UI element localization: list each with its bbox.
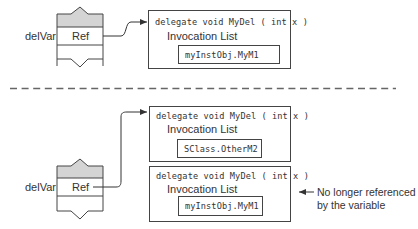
old-method-entry: myInstObj.MyM1 <box>185 202 259 211</box>
bottom-ref-label: Ref <box>72 182 89 193</box>
old-invocation-list-label: Invocation List <box>167 184 237 195</box>
new-delegate-signature: delegate void MyDel ( int x ) <box>156 112 309 121</box>
top-delegate-signature: delegate void MyDel ( int x ) <box>155 18 308 27</box>
note-line-1: No longer referenced <box>317 186 416 199</box>
top-invocation-list-label: Invocation List <box>167 31 237 42</box>
top-variable-label: delVar <box>25 31 56 42</box>
top-ref-label: Ref <box>72 31 89 42</box>
no-longer-referenced-note: No longer referenced by the variable <box>317 186 416 212</box>
note-line-2: by the variable <box>317 199 416 212</box>
top-reference-arrow <box>103 22 147 36</box>
bottom-variable-label: delVar <box>25 182 56 193</box>
old-delegate-signature: delegate void MyDel ( int x ) <box>156 172 309 181</box>
new-method-entry: SClass.OtherM2 <box>184 145 258 154</box>
top-method-entry: myInstObj.MyM1 <box>185 51 259 60</box>
new-invocation-list-label: Invocation List <box>167 124 237 135</box>
delegate-diagram: delVar Ref delegate void MyDel ( int x )… <box>0 0 418 229</box>
